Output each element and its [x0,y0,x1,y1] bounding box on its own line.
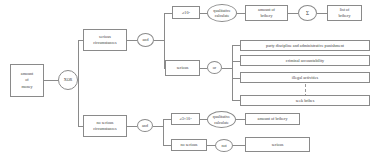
connector-spine-to-threshold-bottom [163,119,171,120]
node-threshold-top[interactable]: ≥10⁴ [172,6,200,19]
node-amount-of-bribery-bottom[interactable]: amount of bribery [245,113,300,125]
connector-or-to-stack [222,68,232,69]
node-criminal-accountability-label: criminal accountability [286,58,324,64]
gate-and-top[interactable]: and [137,33,154,47]
connector-sum-to-list [317,13,327,14]
gate-sum[interactable]: Σ [298,5,317,21]
connector-stack-to-criminal [232,61,240,62]
node-serious-top-label: serious [177,65,189,71]
node-amount-of-bribery-bottom-label: amount of bribery [258,116,288,122]
gate-xor-label: XOR [64,77,73,82]
node-threshold-bottom-label: ≥3×10⁴ [179,116,191,122]
node-party-discipline[interactable]: party discipline and administrative puni… [240,40,370,51]
node-serious-bottom[interactable]: serious [245,137,310,152]
connector-qualb-to-amountb [236,119,245,120]
node-amount-of-bribery-top[interactable]: amount of bribery [245,5,288,21]
connector-thresholdb-to-qualb [200,119,207,120]
connector-seriouscirc-to-and [127,40,137,41]
node-seek-bribes-label: seek bribes [296,98,315,104]
node-threshold-bottom[interactable]: ≥3×10⁴ [171,113,200,125]
connector-bottomand-to-spine [153,126,163,127]
connector-qual-to-amount [237,13,245,14]
node-amount-of-money[interactable]: amount of money [10,64,44,97]
gate-or[interactable]: or [207,61,222,74]
node-criminal-accountability[interactable]: criminal accountability [240,55,370,66]
node-list-of-bribery-label: list of bribery [339,7,351,18]
connector-noserious-to-not [207,145,215,146]
gate-qualitative-calculate-top[interactable]: qualitative calculate [207,4,237,22]
connector-stack-to-seek [232,100,240,101]
diagram-canvas: amount of money XOR serious circumstance… [0,0,391,162]
gate-not-label: not [221,143,226,148]
gate-qualitative-calculate-bottom[interactable]: qualitative calculate [207,111,236,128]
gate-qualitative-calculate-bottom-label: qualitative calculate [213,114,230,125]
connector-amount-to-sum [288,13,298,14]
node-serious-top[interactable]: serious [165,60,200,76]
connector-spine-to-noserious [163,145,171,146]
gate-sum-label: Σ [306,10,309,17]
node-serious-bottom-label: serious [272,142,284,148]
connector-serioustop-to-or [200,68,207,69]
node-list-of-bribery[interactable]: list of bribery [327,5,362,21]
connector-money-to-xor [44,80,58,81]
node-threshold-top-label: ≥10⁴ [182,10,190,16]
node-amount-of-money-label: amount of money [21,71,33,89]
node-illegal-activities-label: illegal activities [292,75,318,81]
node-no-serious-circumstances-label: no serious circumstances [93,120,116,131]
node-no-serious-circumstances[interactable]: no serious circumstances [83,115,127,137]
node-seek-bribes[interactable]: seek bribes [240,95,370,106]
node-serious-circumstances[interactable]: serious circumstances [83,29,127,51]
gate-and-top-label: and [143,37,149,42]
connector-and-to-spine [154,40,164,41]
node-illegal-activities[interactable]: illegal activities [240,72,370,83]
node-amount-of-bribery-top-label: amount of bribery [258,7,275,18]
node-serious-circumstances-label: serious circumstances [93,34,116,45]
connector-xor-spine-lower [78,80,79,126]
node-no-serious[interactable]: no serious [171,139,207,151]
gate-not[interactable]: not [215,139,233,152]
connector-stack-spine [232,45,233,100]
connector-spine-to-threshold [164,13,172,14]
connector-xor-spine [78,40,79,81]
node-party-discipline-label: party discipline and administrative puni… [266,43,344,49]
connector-not-to-seriousb [233,145,245,146]
gate-or-label: or [213,65,216,70]
gate-xor[interactable]: XOR [58,70,78,90]
connector-stack-to-illegal [232,78,240,79]
gate-and-bottom-label: and [142,123,148,128]
connector-stack-to-party [232,45,240,46]
connector-threshold-to-qual [200,13,207,14]
connector-bottom-branch-spine [163,119,164,145]
gate-and-bottom[interactable]: and [137,119,153,132]
connector-noseriouscirc-to-and [127,126,137,127]
node-no-serious-label: no serious [181,142,198,148]
gate-qualitative-calculate-top-label: qualitative calculate [213,8,230,19]
